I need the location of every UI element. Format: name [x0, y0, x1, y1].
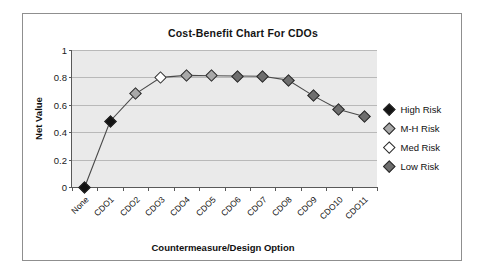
y-axis-tick-label: 0: [62, 182, 67, 193]
legend-item-label: Med Risk: [401, 142, 441, 153]
gridline: [72, 77, 377, 78]
data-point-marker: [129, 87, 142, 100]
data-point-marker: [358, 110, 371, 123]
y-axis-title-label: Net Value: [33, 97, 44, 140]
data-point-marker: [78, 181, 91, 194]
x-axis-tick-mark: [275, 187, 276, 191]
data-point-marker: [256, 70, 269, 83]
legend-item[interactable]: High Risk: [385, 100, 461, 119]
legend-diamond-icon: [383, 160, 395, 172]
gridline: [72, 160, 377, 161]
data-point-marker: [307, 90, 320, 103]
data-point-marker: [104, 115, 117, 128]
data-point-marker: [205, 69, 218, 82]
data-point-marker: [155, 71, 168, 84]
legend-diamond-icon: [383, 103, 395, 115]
legend-item[interactable]: M-H Risk: [385, 119, 461, 138]
y-axis-title: Net Value: [31, 50, 45, 187]
gridline: [72, 132, 377, 133]
y-axis-tick-mark: [69, 160, 72, 161]
y-axis-tick-mark: [69, 132, 72, 133]
legend-item-label: Low Risk: [401, 161, 440, 172]
legend-item-label: M-H Risk: [401, 123, 440, 134]
chart-frame: Cost-Benefit Chart For CDOs Net Value 00…: [22, 13, 462, 261]
legend-diamond-icon: [383, 122, 395, 134]
y-axis-tick-mark: [69, 77, 72, 78]
y-axis-tick-mark: [69, 50, 72, 51]
x-axis-tick-mark: [148, 187, 149, 191]
series-line: [72, 50, 377, 187]
x-axis-tick-mark: [352, 187, 353, 191]
gridline: [72, 50, 377, 51]
legend-item-label: High Risk: [401, 104, 442, 115]
legend-item[interactable]: Low Risk: [385, 157, 461, 176]
y-axis-tick-mark: [69, 105, 72, 106]
y-axis-tick-label: 0.4: [54, 127, 67, 138]
x-axis-tick-mark: [377, 187, 378, 191]
x-axis-tick-mark: [123, 187, 124, 191]
y-axis-tick-label: 0.8: [54, 72, 67, 83]
x-axis-tick-mark: [174, 187, 175, 191]
plot-area: 00.20.40.60.81 NoneCDO1CDO2CDO3CDO4CDO5C…: [71, 50, 377, 188]
gridline: [72, 105, 377, 106]
x-axis-tick-mark: [97, 187, 98, 191]
y-axis-tick-label: 0.2: [54, 154, 67, 165]
x-axis-tick-mark: [225, 187, 226, 191]
chart-legend: High RiskM-H RiskMed RiskLow Risk: [385, 100, 461, 176]
legend-item[interactable]: Med Risk: [385, 138, 461, 157]
data-point-marker: [282, 74, 295, 87]
x-axis-tick-mark: [250, 187, 251, 191]
data-point-marker: [180, 69, 193, 82]
data-point-marker: [231, 70, 244, 83]
legend-diamond-icon: [383, 141, 395, 153]
chart-title: Cost-Benefit Chart For CDOs: [23, 27, 463, 39]
x-axis-tick-mark: [301, 187, 302, 191]
x-axis-tick-mark: [326, 187, 327, 191]
x-axis-tick-mark: [199, 187, 200, 191]
y-axis-tick-label: 0.6: [54, 99, 67, 110]
x-axis-title: Countermeasure/Design Option: [43, 242, 403, 253]
y-axis-tick-label: 1: [62, 45, 67, 56]
x-axis-tick-mark: [72, 187, 73, 191]
